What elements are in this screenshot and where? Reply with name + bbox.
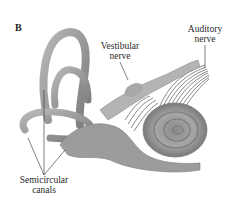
label-semicircular-canals: Semicircular canals: [14, 175, 74, 195]
label-semicircular-line1: Semicircular: [14, 175, 74, 185]
panel-letter: B: [15, 22, 22, 33]
label-semicircular-line2: canals: [14, 185, 74, 195]
label-vestibular-line1: Vestibular: [95, 41, 145, 51]
inner-ear-diagram: B Vestibular nerve Auditory nerve Semici…: [0, 0, 236, 200]
label-vestibular-nerve: Vestibular nerve: [95, 41, 145, 61]
cochlea-shape: [143, 103, 207, 157]
label-auditory-line1: Auditory: [182, 24, 228, 34]
label-auditory-line2: nerve: [182, 34, 228, 44]
label-vestibular-line2: nerve: [95, 51, 145, 61]
label-auditory-nerve: Auditory nerve: [182, 24, 228, 44]
semicircular-canals-shape: [23, 32, 92, 139]
